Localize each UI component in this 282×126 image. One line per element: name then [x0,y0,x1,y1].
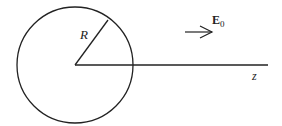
field-symbol: E [212,13,220,27]
field-label: E0 [212,13,225,29]
field-subscript: 0 [220,19,225,29]
field-arrow-icon [185,26,212,38]
radius-label: R [80,27,88,43]
z-axis-label: z [252,69,257,84]
sphere-field-diagram [0,0,282,126]
